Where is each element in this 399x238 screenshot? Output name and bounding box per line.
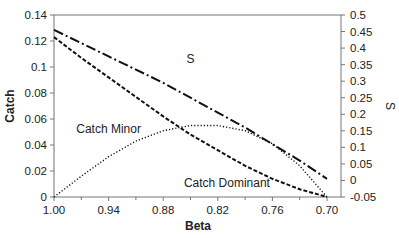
annotation-label: S bbox=[186, 52, 194, 66]
y2-tick-label: 0.25 bbox=[350, 92, 372, 104]
annotation-label: Catch Minor bbox=[76, 122, 141, 136]
y2-tick-label: 0 bbox=[350, 174, 356, 186]
y-tick-label: 0.04 bbox=[25, 139, 48, 151]
y2-tick-label: 0.05 bbox=[350, 158, 372, 170]
y-tick-label: 0.12 bbox=[25, 35, 47, 47]
y-tick-label: 0.02 bbox=[25, 165, 47, 177]
y-axis-label: Catch bbox=[3, 89, 17, 122]
x-axis-label: Beta bbox=[185, 219, 211, 233]
y2-tick-label: -0.05 bbox=[350, 191, 376, 203]
x-tick-label: 1.00 bbox=[43, 204, 65, 216]
y-tick-label: 0 bbox=[41, 191, 47, 203]
x-tick-label: 0.82 bbox=[207, 204, 229, 216]
y2-tick-label: 0.35 bbox=[350, 59, 372, 71]
y2-tick-label: 0.45 bbox=[350, 26, 372, 38]
y2-tick-label: 0.3 bbox=[350, 75, 366, 87]
x-tick-label: 0.94 bbox=[97, 204, 120, 216]
x-tick-label: 0.70 bbox=[316, 204, 338, 216]
y-tick-label: 0.14 bbox=[25, 9, 48, 21]
y-axis-left: 00.020.040.060.080.10.120.14 bbox=[25, 9, 54, 203]
y2-tick-label: 0.2 bbox=[350, 108, 366, 120]
y2-tick-label: 0.4 bbox=[350, 42, 367, 54]
y2-tick-label: 0.1 bbox=[350, 141, 366, 153]
y-tick-label: 0.06 bbox=[25, 113, 47, 125]
y-axis-right: -0.0500.050.10.150.20.250.30.350.40.450.… bbox=[341, 9, 376, 203]
y2-axis-label: S bbox=[383, 102, 397, 110]
y-tick-label: 0.08 bbox=[25, 87, 47, 99]
x-tick-label: 0.76 bbox=[261, 204, 283, 216]
plot-area bbox=[54, 15, 341, 197]
y-tick-label: 0.1 bbox=[31, 61, 47, 73]
x-axis: 1.000.940.880.820.760.70 bbox=[43, 197, 338, 216]
annotation-label: Catch Dominant bbox=[184, 176, 271, 190]
y2-tick-label: 0.15 bbox=[350, 125, 372, 137]
x-tick-label: 0.88 bbox=[152, 204, 174, 216]
chart: 1.000.940.880.820.760.70 00.020.040.060.… bbox=[0, 0, 399, 238]
y2-tick-label: 0.5 bbox=[350, 9, 366, 21]
